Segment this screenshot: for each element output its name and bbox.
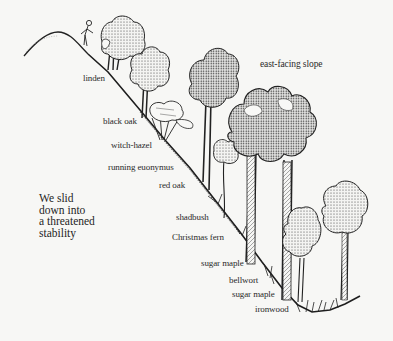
caption-line: a threatened [39, 216, 95, 228]
slope-title: east-facing slope [260, 59, 322, 69]
label-red-oak: red oak [159, 180, 185, 190]
label-sugar-maple-upper: sugar maple [201, 258, 244, 268]
label-bellwort: bellwort [229, 275, 258, 285]
label-ironwood: ironwood [255, 304, 289, 314]
forest-slope-drawing [0, 0, 393, 341]
label-sugar-maple-lower: sugar maple [232, 289, 275, 299]
witch-hazel-shrub [150, 101, 193, 140]
label-linden: linden [83, 73, 105, 83]
label-running-euonymus: running euonymus [108, 162, 174, 172]
hill-crest [24, 32, 88, 56]
shadbush-tree [213, 140, 239, 218]
hiker-figure [81, 20, 93, 46]
caption-line: We slid [39, 193, 95, 205]
caption: We slid down into a threatened stability [39, 193, 95, 239]
label-black-oak: black oak [103, 116, 137, 126]
caption-line: stability [39, 228, 95, 240]
ironwood-tree [322, 181, 368, 300]
illustration-page: east-facing slope linden black oak witch… [0, 0, 393, 341]
label-witch-hazel: witch-hazel [111, 140, 152, 150]
label-christmas-fern: Christmas fern [172, 232, 224, 242]
label-shadbush: shadbush [176, 212, 209, 222]
